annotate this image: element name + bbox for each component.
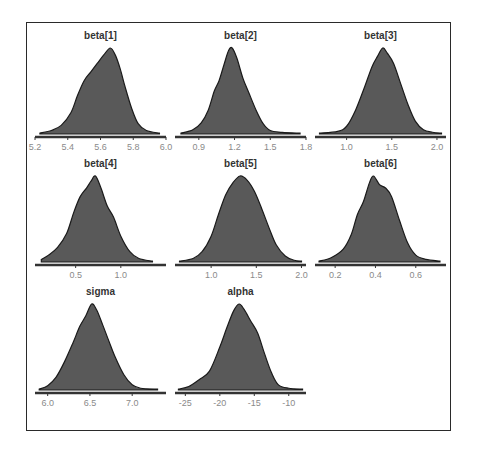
density-panel-beta5: beta[5]1.01.52.0	[175, 158, 308, 280]
panel-title: sigma	[86, 286, 115, 297]
panel-title: alpha	[227, 286, 254, 297]
panel-title: beta[5]	[224, 158, 257, 169]
x-tick-label: -15	[248, 398, 261, 408]
x-tick-label: 6.0	[160, 142, 173, 152]
panel-title: beta[2]	[224, 30, 257, 41]
x-tick-label: -25	[179, 398, 192, 408]
density-panel-beta3: beta[3]1.01.52.0	[315, 30, 446, 152]
panel-title: beta[6]	[364, 158, 397, 169]
density-area	[320, 48, 442, 134]
x-tick-label: 1.0	[340, 142, 353, 152]
x-tick-label: 5.2	[29, 142, 42, 152]
x-tick-label: -20	[213, 398, 226, 408]
density-area	[41, 176, 152, 262]
panel-title: beta[4]	[84, 158, 117, 169]
density-area	[319, 176, 440, 262]
density-area	[181, 47, 300, 134]
x-tick-label: 0.5	[69, 270, 82, 280]
x-tick-label: 1.5	[386, 142, 399, 152]
density-panel-beta2: beta[2]0.91.21.51.8	[175, 30, 312, 152]
x-tick-label: 0.6	[410, 270, 423, 280]
x-tick-label: 1.2	[228, 142, 241, 152]
x-tick-label: 2.0	[295, 270, 308, 280]
panel-title: beta[1]	[84, 30, 117, 41]
density-area	[40, 48, 160, 134]
x-tick-label: 6.5	[84, 398, 97, 408]
x-tick-label: 7.0	[126, 398, 139, 408]
x-tick-label: 1.0	[115, 270, 128, 280]
density-panel-beta1: beta[1]5.25.45.65.86.0	[29, 30, 173, 152]
density-panel-beta6: beta[6]0.20.40.6	[315, 158, 446, 280]
x-tick-label: -10	[282, 398, 295, 408]
x-tick-label: 0.9	[193, 142, 206, 152]
x-tick-label: 1.5	[264, 142, 277, 152]
x-tick-label: 1.0	[205, 270, 218, 280]
x-tick-label: 1.8	[300, 142, 313, 152]
density-area	[178, 304, 302, 390]
x-tick-label: 0.2	[329, 270, 342, 280]
x-tick-label: 5.6	[94, 142, 107, 152]
density-area	[39, 304, 157, 390]
panel-title: beta[3]	[364, 30, 397, 41]
x-tick-label: 5.4	[61, 142, 74, 152]
x-tick-label: 5.8	[127, 142, 140, 152]
x-tick-label: 1.5	[250, 270, 263, 280]
x-tick-label: 0.4	[369, 270, 382, 280]
density-panel-alpha: alpha-25-20-15-10	[175, 286, 306, 408]
density-panel-sigma: sigma6.06.57.0	[35, 286, 166, 408]
density-plot-grid: beta[1]5.25.45.65.86.0beta[2]0.91.21.51.…	[0, 0, 477, 459]
x-tick-label: 2.0	[431, 142, 444, 152]
density-panel-beta4: beta[4]0.51.0	[35, 158, 166, 280]
density-area	[180, 176, 302, 262]
x-tick-label: 6.0	[41, 398, 54, 408]
